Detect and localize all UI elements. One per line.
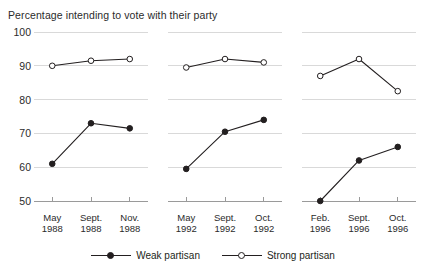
data-point-strong-partisan[interactable]: [395, 88, 401, 94]
legend-marker-filled-circle: [91, 251, 131, 261]
legend-item-strong-partisan[interactable]: Strong partisan: [222, 250, 335, 261]
series-line-weak-partisan: [320, 147, 398, 201]
data-point-strong-partisan[interactable]: [88, 58, 94, 64]
legend-label: Weak partisan: [136, 250, 200, 261]
x-tick-label-line: Oct.: [375, 212, 421, 223]
data-point-strong-partisan[interactable]: [317, 73, 323, 79]
x-tick-label-line: 1996: [375, 223, 421, 234]
data-point-weak-partisan[interactable]: [222, 129, 228, 135]
data-point-weak-partisan[interactable]: [356, 158, 362, 164]
series-line-weak-partisan: [186, 120, 264, 169]
chart-legend: Weak partisanStrong partisan: [0, 250, 426, 261]
legend-symbol: [238, 252, 245, 259]
data-point-weak-partisan[interactable]: [317, 198, 323, 204]
data-point-weak-partisan[interactable]: [395, 144, 401, 150]
data-point-strong-partisan[interactable]: [49, 63, 55, 69]
data-point-weak-partisan[interactable]: [261, 117, 267, 123]
data-point-strong-partisan[interactable]: [183, 65, 189, 71]
chart-panel-1992: [168, 32, 282, 201]
data-point-weak-partisan[interactable]: [183, 166, 189, 172]
x-tick-label-line: 1992: [241, 223, 287, 234]
x-tick-label-line: Oct.: [241, 212, 287, 223]
legend-symbol: [107, 252, 114, 259]
chart-panel-1996: [302, 32, 416, 204]
plot-area: [0, 0, 426, 276]
data-point-weak-partisan[interactable]: [127, 126, 133, 132]
x-tick-label-line: Nov.: [107, 212, 153, 223]
data-point-strong-partisan[interactable]: [127, 56, 133, 62]
legend-marker-open-circle: [222, 251, 262, 261]
x-tick-label: Oct.1996: [375, 212, 421, 234]
x-tick-label: Nov.1988: [107, 212, 153, 234]
data-point-weak-partisan[interactable]: [88, 120, 94, 126]
x-tick-label: Oct.1992: [241, 212, 287, 234]
data-point-strong-partisan[interactable]: [222, 56, 228, 62]
legend-item-weak-partisan[interactable]: Weak partisan: [91, 250, 200, 261]
chart-container: Percentage intending to vote with their …: [0, 0, 426, 276]
series-line-weak-partisan: [52, 123, 130, 164]
data-point-weak-partisan[interactable]: [49, 161, 55, 167]
data-point-strong-partisan[interactable]: [356, 56, 362, 62]
data-point-strong-partisan[interactable]: [261, 60, 267, 66]
series-line-strong-partisan: [320, 59, 398, 91]
chart-panel-1988: [34, 32, 148, 201]
x-tick-label-line: 1988: [107, 223, 153, 234]
legend-label: Strong partisan: [267, 250, 335, 261]
